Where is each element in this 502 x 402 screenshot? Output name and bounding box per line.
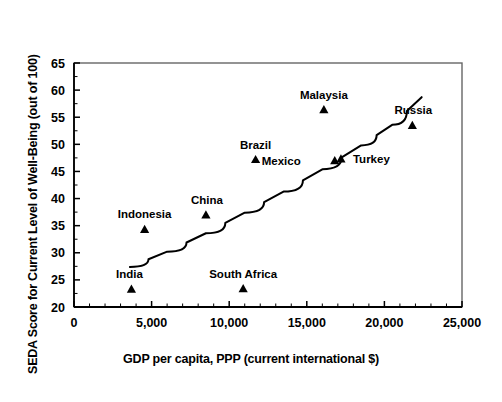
data-point-label-india: India [116, 268, 143, 280]
y-axis-ticks: 20253035404550556065 [51, 57, 80, 315]
data-point-marker-indonesia [140, 225, 149, 233]
data-point-label-russia: Russia [394, 104, 432, 116]
y-tick-label: 60 [51, 84, 65, 98]
trend-line-path [130, 97, 422, 267]
y-tick-label: 25 [51, 273, 65, 287]
data-point-label-mexico: Mexico [262, 155, 301, 167]
data-points-group: IndiaIndonesiaChinaSouth AfricaBrazilMal… [116, 89, 433, 293]
y-tick-label: 50 [51, 138, 65, 152]
data-point-label-turkey: Turkey [353, 153, 390, 165]
y-tick-label: 65 [51, 57, 65, 71]
y-tick-label: 20 [51, 301, 65, 315]
y-tick-label: 30 [51, 246, 65, 260]
x-axis-ticks: 05,00010,00015,00020,00025,000 [71, 301, 482, 330]
data-point-marker-india [127, 285, 136, 293]
data-point-label-brazil: Brazil [240, 139, 271, 151]
y-tick-label: 35 [51, 219, 65, 233]
y-tick-label: 45 [51, 165, 65, 179]
y-tick-label: 55 [51, 111, 65, 125]
x-tick-label: 15,000 [288, 316, 326, 330]
data-point-label-china: China [191, 194, 224, 206]
x-tick-label: 20,000 [365, 316, 403, 330]
data-point-marker-china [201, 210, 210, 218]
data-point-label-malaysia: Malaysia [300, 89, 349, 101]
data-point-label-south-africa: South Africa [209, 268, 278, 280]
chart-figure: SEDA Score for Current Level of Well-Bei… [0, 0, 502, 402]
data-point-marker-south-africa [239, 284, 248, 292]
x-tick-label: 0 [71, 316, 78, 330]
data-point-marker-malaysia [319, 105, 328, 113]
x-axis-title: GDP per capita, PPP (current internation… [0, 352, 502, 366]
y-tick-label: 40 [51, 192, 65, 206]
x-tick-label: 5,000 [136, 316, 167, 330]
scatter-plot-canvas: 05,00010,00015,00020,00025,000 202530354… [0, 0, 502, 402]
data-point-marker-russia [408, 121, 417, 129]
data-point-label-indonesia: Indonesia [118, 208, 172, 220]
trend-line [130, 97, 422, 267]
x-tick-label: 25,000 [443, 316, 481, 330]
data-point-marker-brazil [251, 155, 260, 163]
x-tick-label: 10,000 [210, 316, 248, 330]
